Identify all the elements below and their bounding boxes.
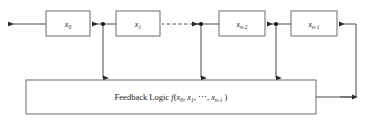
tap-junction-dot-3 (274, 22, 278, 26)
feedback-logic-label: Feedback Logic f(x0, x1, ⋯, xn-1 ) (115, 92, 228, 103)
register-label-x1-sub: 1 (138, 24, 141, 30)
tap-junction-dot-1 (101, 22, 105, 26)
diagram-canvas: x0 x1 xn-2 xn-1 Feedback Logic f(x0, x1,… (0, 0, 369, 124)
tap-junction-dot-2 (199, 22, 203, 26)
register-label-xn2-sub: n-2 (240, 24, 248, 30)
register-label-x0-sub: 0 (68, 24, 71, 30)
register-label-xn1-sub: n-1 (312, 24, 320, 30)
lfsr-diagram: x0 x1 xn-2 xn-1 Feedback Logic f(x0, x1,… (0, 0, 369, 124)
feedback-logic-prefix: Feedback Logic (115, 92, 172, 102)
